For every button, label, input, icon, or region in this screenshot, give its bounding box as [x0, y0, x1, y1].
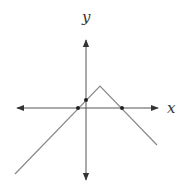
x-intercept-right-point: [120, 106, 124, 110]
x-intercept-left-point: [76, 106, 80, 110]
x-axis-label: x: [167, 99, 176, 117]
y-axis-label: y: [81, 8, 91, 26]
function-graph-diagram: x y: [0, 0, 183, 188]
y-intercept-point: [84, 98, 88, 102]
